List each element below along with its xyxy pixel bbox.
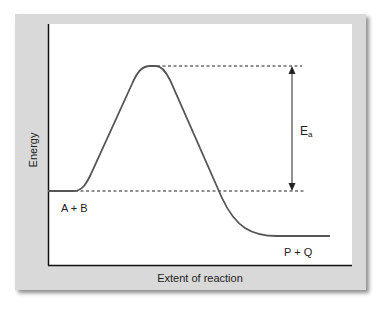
products-label: P + Q: [284, 246, 312, 258]
arrow-head-down-icon: [289, 183, 296, 191]
reactants-label: A + B: [61, 202, 88, 214]
energy-diagram: [0, 0, 381, 310]
x-axis-label: Extent of reaction: [157, 272, 243, 284]
ea-subscript: a: [308, 130, 312, 139]
ea-main: E: [300, 124, 308, 138]
activation-energy-label: Ea: [300, 124, 312, 139]
arrow-head-up-icon: [289, 66, 296, 74]
y-axis-label: Energy: [27, 133, 39, 168]
energy-curve: [48, 66, 330, 236]
